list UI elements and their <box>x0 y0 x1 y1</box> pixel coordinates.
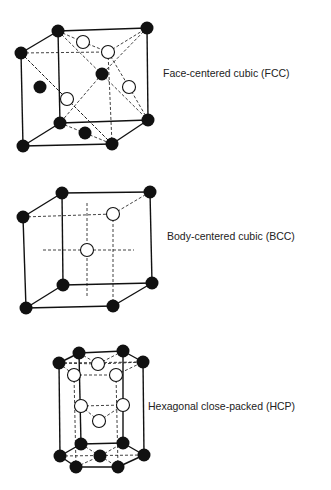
hcp-label: Hexagonal close-packed (HCP) <box>148 400 295 412</box>
cell-edge <box>26 306 113 308</box>
filled-atom <box>112 461 125 474</box>
filled-atom <box>54 450 67 463</box>
cell-edge <box>23 123 60 146</box>
filled-atom <box>96 68 109 81</box>
cell-edge <box>62 192 150 193</box>
hcp-unit-cell <box>53 345 151 474</box>
cell-edge <box>23 193 62 217</box>
fcc-label: Face-centered cubic (FCC) <box>163 67 290 79</box>
dashed-edge <box>116 375 118 467</box>
bcc-unit-cell <box>17 186 159 315</box>
filled-atom <box>15 47 28 60</box>
open-atom <box>110 369 123 382</box>
filled-atom <box>94 450 107 463</box>
filled-atom <box>57 279 70 292</box>
filled-atom <box>20 302 33 315</box>
cell-edge <box>143 362 144 455</box>
filled-atom <box>52 25 65 38</box>
dashed-edge <box>21 52 108 53</box>
filled-atom <box>73 347 86 360</box>
filled-atom <box>107 300 120 313</box>
filled-atom <box>144 186 157 199</box>
open-atom <box>75 400 88 413</box>
filled-atom <box>106 138 119 151</box>
open-atom <box>102 46 115 59</box>
open-atom <box>77 36 90 49</box>
open-atom <box>68 369 81 382</box>
cell-edge <box>79 351 123 353</box>
cell-edge <box>60 120 148 123</box>
filled-atom <box>56 187 69 200</box>
cell-edge <box>150 192 152 283</box>
cell-edge <box>113 283 152 306</box>
cell-edge <box>147 28 148 120</box>
filled-atom <box>141 22 154 35</box>
open-atom <box>117 399 130 412</box>
filled-atom <box>17 211 30 224</box>
cell-edge <box>63 283 152 285</box>
filled-atom <box>142 114 155 127</box>
open-atom <box>81 244 94 257</box>
cell-edge <box>79 353 81 444</box>
cell-edge <box>62 193 63 285</box>
open-atom <box>61 93 74 106</box>
cell-edge <box>26 285 63 308</box>
filled-atom <box>137 356 150 369</box>
filled-atom <box>75 438 88 451</box>
open-atom <box>123 81 136 94</box>
filled-atom <box>117 437 130 450</box>
cell-edge <box>23 217 26 308</box>
filled-atom <box>53 357 66 370</box>
bcc-label: Body-centered cubic (BCC) <box>167 230 295 242</box>
filled-atom <box>54 117 67 130</box>
open-atom <box>107 208 120 221</box>
cell-edge <box>58 28 147 31</box>
filled-atom <box>17 140 30 153</box>
filled-atom <box>117 345 130 358</box>
open-atom <box>92 358 105 371</box>
fcc-unit-cell <box>15 22 155 153</box>
cell-edge <box>23 144 112 146</box>
cell-edge <box>21 53 23 146</box>
filled-atom <box>70 461 83 474</box>
dashed-edge <box>23 214 113 217</box>
filled-atom <box>146 277 159 290</box>
open-atom <box>93 415 106 428</box>
filled-atom <box>138 449 151 462</box>
dashed-edge <box>74 375 76 467</box>
cell-edge <box>58 31 60 123</box>
cell-edge <box>59 363 60 456</box>
filled-atom <box>34 81 47 94</box>
filled-atom <box>79 127 92 140</box>
